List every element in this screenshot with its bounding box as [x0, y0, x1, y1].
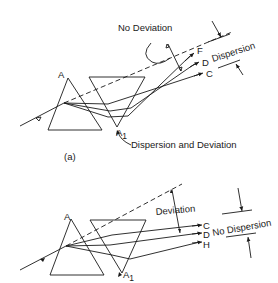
- ray-c-arrow-icon: [192, 225, 202, 226]
- prism-diagram: F D C A A1 No Deviation Dispersion Dispe…: [0, 0, 278, 283]
- vertex-a1-label-b: A1: [123, 269, 134, 283]
- no-dispersion-arrow-top-icon: [238, 188, 242, 211]
- ray-c-arrow-icon: [194, 73, 203, 76]
- dispersion-tick-top: [208, 34, 230, 42]
- incident-arrow-icon: [40, 258, 45, 262]
- incident-ray-b: [20, 246, 66, 270]
- vertex-a-label-b: A: [64, 211, 71, 222]
- dispersion-arrow-bottom-icon: [236, 64, 243, 75]
- deviation-label: Deviation: [155, 203, 195, 217]
- ray-d-arrow-icon: [190, 62, 199, 67]
- dispersion-label: Dispersion: [210, 40, 256, 64]
- prism-a-second: [89, 77, 145, 127]
- ray-f-path: [64, 56, 190, 117]
- incident-ray-a: [20, 103, 64, 126]
- prism-b-first: [50, 219, 104, 275]
- no-dispersion-arrow-bottom-icon: [248, 237, 251, 258]
- ray-label-c: C: [206, 68, 213, 79]
- no-deviation-label: No Deviation: [118, 22, 172, 33]
- ray-f-arrow-icon: [185, 53, 194, 61]
- ray-label-f: F: [197, 45, 203, 56]
- figure-a: F D C A A1 No Deviation Dispersion Dispe…: [20, 21, 256, 162]
- dispersion-and-deviation-label: Dispersion and Deviation: [131, 139, 237, 150]
- ray-label-h-b: H: [203, 239, 210, 250]
- incident-arrow-icon: [36, 117, 41, 121]
- no-deviation-dimension-line: [168, 44, 181, 71]
- ray-h-arrow-icon: [192, 242, 202, 243]
- figure-b: C D H A A1 Deviation No Dispersion: [20, 184, 272, 283]
- ray-label-d: D: [202, 57, 209, 68]
- dispersion-arrow-top-icon: [212, 21, 221, 37]
- ray-d-arrow-icon: [192, 233, 202, 234]
- no-dispersion-tick-top: [222, 210, 252, 214]
- figure-a-caption: (a): [64, 151, 76, 162]
- vertex-a-label: A: [58, 69, 65, 80]
